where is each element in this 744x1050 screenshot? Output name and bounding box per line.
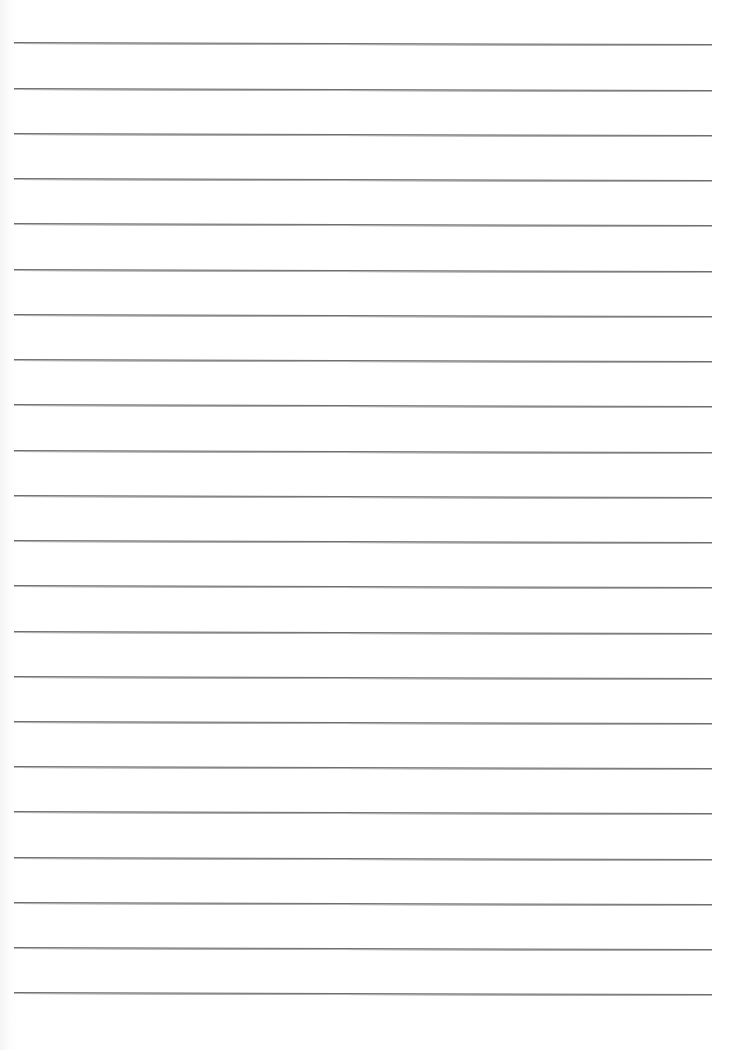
ruled-line xyxy=(14,359,712,363)
ruled-line xyxy=(14,223,712,227)
ruled-line xyxy=(14,540,712,544)
ruled-line xyxy=(14,766,712,770)
ruled-line xyxy=(14,676,712,680)
ruled-line xyxy=(14,585,712,589)
ruled-line xyxy=(14,495,712,499)
ruled-line xyxy=(14,42,712,46)
ruled-line xyxy=(14,133,712,137)
ruled-line xyxy=(14,314,712,318)
ruled-line xyxy=(14,721,712,725)
ruled-line xyxy=(14,857,712,861)
ruled-line xyxy=(14,811,712,815)
ruled-line xyxy=(14,631,712,635)
ruled-line xyxy=(14,992,712,996)
ruled-line xyxy=(14,178,712,182)
lined-paper-page xyxy=(0,0,744,1050)
ruled-line xyxy=(14,88,712,92)
ruled-line xyxy=(14,902,712,906)
ruled-line xyxy=(14,450,712,454)
ruled-line xyxy=(14,404,712,408)
ruled-line xyxy=(14,269,712,273)
ruled-line xyxy=(14,947,712,951)
